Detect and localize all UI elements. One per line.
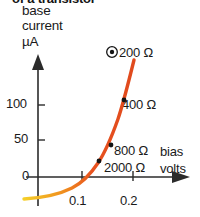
data-point-800-ohm xyxy=(109,143,114,148)
chart-canvas xyxy=(0,0,200,217)
data-point-400-ohm xyxy=(122,98,127,103)
x-axis-arrowhead-icon xyxy=(172,171,190,183)
transistor-characteristic-chart: of a transistor base current µA bias vol… xyxy=(0,0,200,217)
y-axis-arrowhead-icon xyxy=(32,54,44,70)
data-point-2000-ohm xyxy=(97,159,102,164)
data-point-200-ohm xyxy=(107,47,118,58)
characteristic-curve xyxy=(24,60,134,199)
